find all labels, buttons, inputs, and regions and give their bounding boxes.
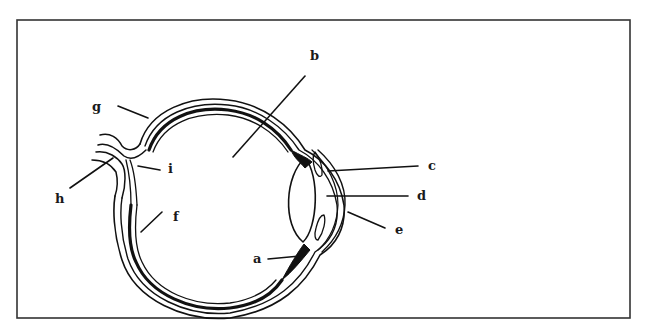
diagram-frame: [17, 20, 630, 318]
label-d: d: [417, 188, 426, 203]
label-a: a: [253, 251, 262, 266]
eye-diagram: a b c d e f g h i: [0, 0, 647, 336]
label-e: e: [395, 222, 403, 237]
label-g: g: [92, 99, 101, 114]
label-b: b: [310, 48, 319, 63]
label-i: i: [168, 161, 173, 176]
label-h: h: [55, 191, 65, 206]
label-c: c: [428, 158, 436, 173]
